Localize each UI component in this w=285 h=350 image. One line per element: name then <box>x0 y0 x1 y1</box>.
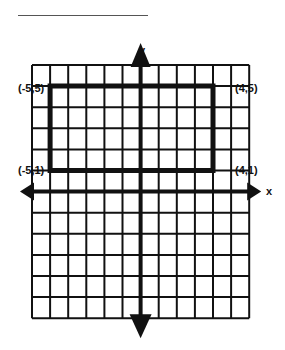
y-axis-down-arrow-icon <box>130 314 152 338</box>
vertex-label-bottom-left: (-5,1) <box>18 164 44 176</box>
y-axis-label: y <box>139 44 145 56</box>
x-axis-right-arrow-icon <box>247 183 261 201</box>
x-axis-left-arrow-icon <box>20 183 34 201</box>
x-axis-label: x <box>266 185 272 197</box>
vertex-label-top-right: (4,5) <box>235 82 258 94</box>
vertex-label-top-left: (-5,5) <box>18 82 44 94</box>
vertex-label-bottom-right: (4,1) <box>235 164 258 176</box>
